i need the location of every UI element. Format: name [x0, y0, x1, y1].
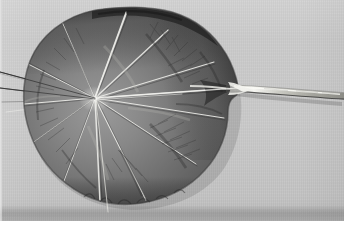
leaf-artwork: [0, 0, 344, 227]
petiole: [226, 82, 344, 106]
photograph: [0, 0, 344, 227]
